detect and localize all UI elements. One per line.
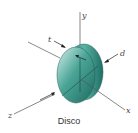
disk-diagram: y x z t d [0, 0, 138, 133]
arrowhead [61, 44, 66, 48]
z-axis-back [28, 42, 60, 58]
x-label: x [126, 106, 131, 115]
diameter-label: d [120, 49, 125, 58]
z-axis [14, 94, 55, 114]
diagram-caption: Disco [0, 116, 138, 126]
y-label: y [81, 11, 87, 20]
thickness-label: t [48, 35, 52, 44]
